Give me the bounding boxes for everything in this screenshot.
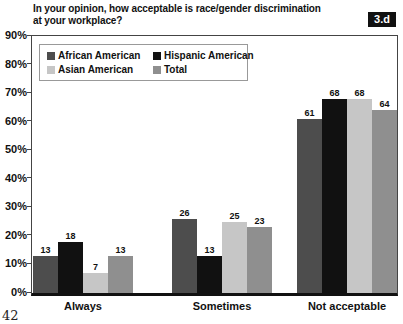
bar-hispanic-american-not-acceptable xyxy=(322,99,347,293)
bar-value-label: 23 xyxy=(254,216,264,226)
y-tick-label: 40% xyxy=(5,172,27,184)
legend-label: African American xyxy=(58,50,140,61)
bar-total-not-acceptable xyxy=(372,110,397,293)
legend-label: Hispanic American xyxy=(164,50,254,61)
figure-page: In your opinion, how acceptable is race/… xyxy=(0,0,403,324)
figure-number-badge: 3.d xyxy=(368,12,396,27)
legend-swatch-african-american xyxy=(47,52,55,60)
bar-value-label: 68 xyxy=(329,88,339,98)
bar-value-label: 25 xyxy=(229,211,239,221)
bar-african-american-always xyxy=(33,256,58,293)
x-category-label-not-acceptable: Not acceptable xyxy=(297,300,397,312)
y-tick-label: 0% xyxy=(11,286,27,298)
legend: African AmericanHispanic AmericanAsian A… xyxy=(39,44,248,81)
bar-value-label: 68 xyxy=(354,88,364,98)
legend-item-african-american: African American xyxy=(47,50,153,61)
y-tick-label: 70% xyxy=(5,86,27,98)
bar-asian-american-always xyxy=(83,273,108,293)
bar-african-american-not-acceptable xyxy=(297,119,322,293)
y-tick-label: 60% xyxy=(5,115,27,127)
bar-total-always xyxy=(108,256,133,293)
bar-african-american-sometimes xyxy=(172,219,197,293)
legend-swatch-total xyxy=(153,66,161,74)
bar-column-african-american-not-acceptable: 61 xyxy=(297,36,322,293)
legend-swatch-asian-american xyxy=(47,66,55,74)
bar-value-label: 26 xyxy=(179,208,189,218)
y-tick-label: 30% xyxy=(5,200,27,212)
y-tick-label: 20% xyxy=(5,229,27,241)
bar-asian-american-not-acceptable xyxy=(347,99,372,293)
bar-column-hispanic-american-not-acceptable: 68 xyxy=(322,36,347,293)
y-tick-label: 90% xyxy=(5,29,27,41)
chart-title-line1: In your opinion, how acceptable is race/… xyxy=(33,3,321,15)
chart-title-line2: at your workplace? xyxy=(33,15,321,27)
bar-asian-american-sometimes xyxy=(222,222,247,293)
y-tick-label: 10% xyxy=(5,257,27,269)
chart-title: In your opinion, how acceptable is race/… xyxy=(33,3,321,27)
legend-label: Total xyxy=(164,64,187,75)
bar-value-label: 13 xyxy=(115,245,125,255)
bar-total-sometimes xyxy=(247,227,272,293)
plot-area: African AmericanHispanic AmericanAsian A… xyxy=(31,35,398,296)
x-category-label-always: Always xyxy=(33,300,133,312)
bar-column-asian-american-not-acceptable: 68 xyxy=(347,36,372,293)
y-tick-label: 50% xyxy=(5,143,27,155)
bar-value-label: 18 xyxy=(65,231,75,241)
bar-hispanic-american-sometimes xyxy=(197,256,222,293)
legend-swatch-hispanic-american xyxy=(153,52,161,60)
legend-item-hispanic-american: Hispanic American xyxy=(153,50,254,61)
legend-label: Asian American xyxy=(58,64,133,75)
bar-value-label: 7 xyxy=(93,262,98,272)
bar-value-label: 64 xyxy=(379,99,389,109)
bar-value-label: 13 xyxy=(40,245,50,255)
legend-item-asian-american: Asian American xyxy=(47,64,153,75)
y-tick-label: 80% xyxy=(5,58,27,70)
bar-column-total-not-acceptable: 64 xyxy=(372,36,397,293)
legend-item-total: Total xyxy=(153,64,254,75)
page-number: 42 xyxy=(2,308,19,323)
bar-value-label: 13 xyxy=(204,245,214,255)
x-category-label-sometimes: Sometimes xyxy=(172,300,272,312)
bar-group-not-acceptable: 61686864Not acceptable xyxy=(297,36,397,293)
bar-hispanic-american-always xyxy=(58,242,83,293)
bar-value-label: 61 xyxy=(304,108,314,118)
y-axis: 90%80%70%60%50%40%30%20%10%0% xyxy=(0,35,27,292)
